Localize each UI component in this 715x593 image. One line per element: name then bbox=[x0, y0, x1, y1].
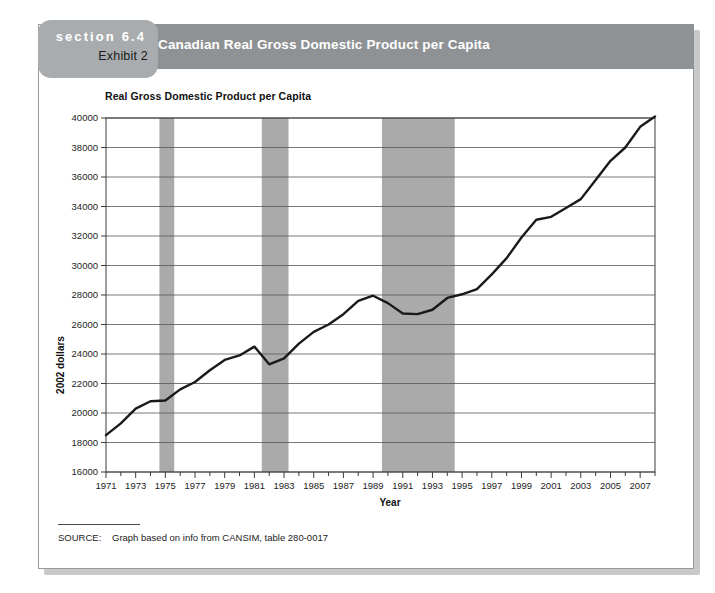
svg-text:20000: 20000 bbox=[72, 407, 98, 418]
svg-text:1991: 1991 bbox=[392, 480, 413, 491]
svg-text:26000: 26000 bbox=[72, 319, 98, 330]
y-axis-ticks: 1600018000200002200024000260002800030000… bbox=[72, 112, 106, 477]
exhibit-label: Exhibit 2 bbox=[38, 49, 148, 63]
svg-text:18000: 18000 bbox=[72, 437, 98, 448]
svg-text:2001: 2001 bbox=[541, 480, 562, 491]
x-axis-title: Year bbox=[379, 497, 400, 508]
exhibit-banner: Canadian Real Gross Domestic Product per… bbox=[98, 24, 694, 69]
y-axis-title: 2002 dollars bbox=[55, 336, 66, 394]
svg-text:1971: 1971 bbox=[95, 480, 116, 491]
svg-text:1979: 1979 bbox=[214, 480, 235, 491]
banner-title: Canadian Real Gross Domestic Product per… bbox=[158, 37, 490, 52]
svg-text:1995: 1995 bbox=[452, 480, 473, 491]
svg-text:1977: 1977 bbox=[184, 480, 205, 491]
svg-text:34000: 34000 bbox=[72, 201, 98, 212]
section-label: section 6.4 bbox=[38, 29, 146, 44]
source-rule bbox=[58, 524, 140, 525]
svg-text:1997: 1997 bbox=[481, 480, 502, 491]
svg-text:30000: 30000 bbox=[72, 260, 98, 271]
svg-text:22000: 22000 bbox=[72, 378, 98, 389]
svg-text:1975: 1975 bbox=[155, 480, 176, 491]
svg-text:1981: 1981 bbox=[244, 480, 265, 491]
svg-text:1973: 1973 bbox=[125, 480, 146, 491]
exhibit-page: Canadian Real Gross Domestic Product per… bbox=[0, 0, 715, 593]
svg-text:38000: 38000 bbox=[72, 142, 98, 153]
svg-text:1993: 1993 bbox=[422, 480, 443, 491]
svg-text:24000: 24000 bbox=[72, 348, 98, 359]
source-text: Graph based on info from CANSIM, table 2… bbox=[112, 532, 328, 543]
source-label: SOURCE: bbox=[58, 532, 101, 543]
svg-text:36000: 36000 bbox=[72, 171, 98, 182]
x-axis-ticks: 1971197319751977197919811983198519871989… bbox=[95, 472, 655, 491]
svg-text:1989: 1989 bbox=[363, 480, 384, 491]
svg-text:32000: 32000 bbox=[72, 230, 98, 241]
section-tab: section 6.4 Exhibit 2 bbox=[38, 20, 158, 78]
svg-text:2007: 2007 bbox=[630, 480, 651, 491]
svg-text:1985: 1985 bbox=[303, 480, 324, 491]
svg-text:16000: 16000 bbox=[72, 466, 98, 477]
svg-text:1999: 1999 bbox=[511, 480, 532, 491]
svg-text:2003: 2003 bbox=[570, 480, 591, 491]
data-line bbox=[106, 117, 655, 436]
gdp-line-chart: 1600018000200002200024000260002800030000… bbox=[50, 100, 670, 520]
svg-text:40000: 40000 bbox=[72, 112, 98, 123]
svg-text:1983: 1983 bbox=[273, 480, 294, 491]
gridlines bbox=[106, 118, 655, 472]
svg-text:1987: 1987 bbox=[333, 480, 354, 491]
svg-text:28000: 28000 bbox=[72, 289, 98, 300]
svg-text:2005: 2005 bbox=[600, 480, 621, 491]
